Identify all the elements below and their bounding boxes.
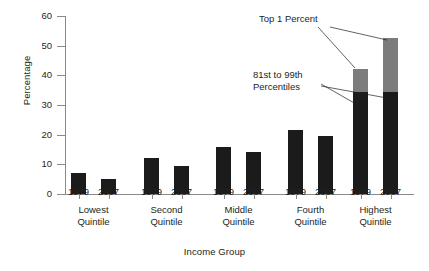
year-label-second-2007: 2007: [162, 186, 202, 197]
bar-fourth-1979: [288, 130, 303, 194]
annotation-percentiles-line2: Percentiles: [253, 81, 303, 93]
y-tick-label-30: 30: [30, 99, 52, 110]
y-tick-50: 50: [57, 46, 65, 47]
group-label-line1: Highest: [326, 204, 426, 216]
group-label-highest: HighestQuintile: [326, 204, 426, 227]
bar-segment-81st-to-99th-1979: [353, 92, 368, 194]
bar-segment-top-1-percent-2007: [383, 38, 398, 91]
annotation-81st-to-99th-percentiles: 81st to 99th Percentiles: [253, 69, 303, 92]
y-tick-20: 20: [57, 135, 65, 136]
y-tick-40: 40: [57, 75, 65, 76]
year-label-lowest-2007: 2007: [89, 186, 129, 197]
y-tick-label-10: 10: [30, 158, 52, 169]
annotation-81st-to-99th-line1: 81st to 99th: [253, 69, 303, 81]
year-label-highest-2007: 2007: [371, 186, 411, 197]
y-tick-label-20: 20: [30, 129, 52, 140]
bar-chart: Percentage Income Group 0102030405060 19…: [0, 0, 429, 271]
year-label-middle-2007: 2007: [234, 186, 274, 197]
y-tick-label-50: 50: [30, 40, 52, 51]
y-tick-label-0: 0: [30, 188, 52, 199]
group-label-line2: Quintile: [326, 216, 426, 228]
annotation-top-1-percent: Top 1 Percent: [259, 13, 318, 25]
y-tick-60: 60: [57, 16, 65, 17]
bar-highest-1979: [353, 69, 368, 194]
y-axis-line: [65, 16, 66, 195]
x-axis-title: Income Group: [0, 246, 429, 257]
bar-segment-81st-to-99th-2007: [383, 92, 398, 194]
bar-segment-total-1979: [288, 130, 303, 194]
bar-segment-top-1-percent-1979: [353, 69, 368, 91]
y-tick-label-60: 60: [30, 10, 52, 21]
plot-area: 0102030405060: [66, 16, 418, 194]
bar-highest-2007: [383, 38, 398, 194]
y-tick-10: 10: [57, 164, 65, 165]
year-label-fourth-2007: 2007: [306, 186, 346, 197]
y-tick-30: 30: [57, 105, 65, 106]
y-tick-label-40: 40: [30, 69, 52, 80]
